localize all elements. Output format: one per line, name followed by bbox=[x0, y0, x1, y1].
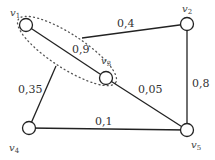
node-v2 bbox=[181, 18, 194, 31]
node-label-v4: v4 bbox=[9, 142, 20, 155]
node-v1 bbox=[20, 19, 33, 32]
weight-cluster-v2: 0,4 bbox=[117, 17, 135, 30]
weight-v2-v5: 0,8 bbox=[192, 77, 210, 90]
weight-v3-v5: 0,05 bbox=[138, 83, 163, 96]
node-v3 bbox=[100, 72, 113, 85]
weight-v4-v5: 0,1 bbox=[95, 115, 113, 128]
node-label-v2: v2 bbox=[182, 3, 192, 16]
edge-cluster-v2 bbox=[82, 24, 187, 38]
edge-v1-v3 bbox=[26, 25, 106, 78]
edge-v4-cluster bbox=[29, 66, 56, 128]
graph-diagram: v1 v2 v3 v4 v5 0,9 0,4 0,8 0,05 0,35 0,1 bbox=[0, 0, 215, 160]
node-v5 bbox=[181, 124, 194, 137]
node-label-v5: v5 bbox=[191, 139, 201, 152]
edge-v4-v5 bbox=[29, 128, 187, 130]
node-label-v1: v1 bbox=[10, 7, 20, 20]
node-v4 bbox=[23, 122, 36, 135]
weight-v1-v3: 0,9 bbox=[72, 43, 90, 56]
node-label-v3: v3 bbox=[101, 55, 111, 68]
weight-v4-cluster: 0,35 bbox=[18, 83, 43, 96]
